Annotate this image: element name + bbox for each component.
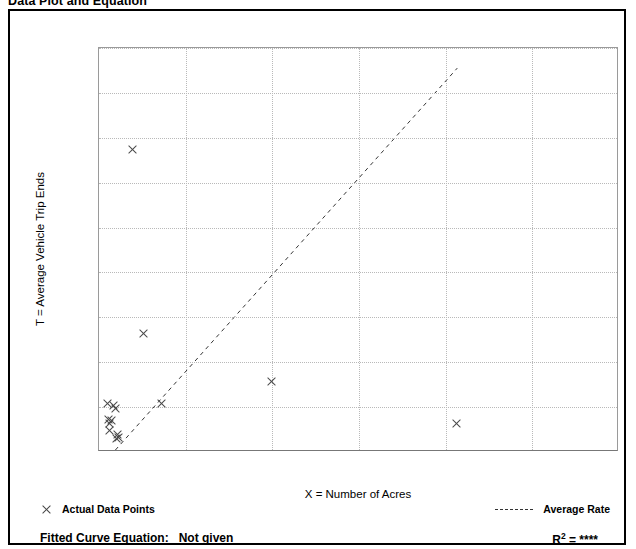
gridline-horizontal xyxy=(99,48,617,49)
y-axis-tick xyxy=(98,93,99,94)
r-squared-exponent: 2 xyxy=(561,531,566,541)
y-axis-minor-tick xyxy=(98,70,99,71)
x-axis-tick xyxy=(99,450,100,451)
dashed-line-icon xyxy=(495,509,533,510)
data-point-marker xyxy=(111,433,122,444)
fitted-curve-equation-label: Fitted Curve Equation: xyxy=(40,531,169,545)
average-rate-trend-line xyxy=(99,48,617,450)
y-axis-minor-tick xyxy=(98,295,99,296)
y-axis-tick xyxy=(98,272,99,273)
y-axis-tick xyxy=(98,228,99,229)
gridline-vertical xyxy=(186,48,187,450)
data-point-marker xyxy=(451,418,462,429)
gridline-vertical xyxy=(359,48,360,450)
y-axis-tick xyxy=(98,183,99,184)
x-axis-minor-tick xyxy=(532,450,533,451)
legend-label-actual-data-points: Actual Data Points xyxy=(62,503,155,515)
y-axis-tick xyxy=(98,407,99,408)
y-axis-minor-tick xyxy=(98,250,99,251)
x-axis-tick xyxy=(272,450,273,451)
gridline-vertical xyxy=(272,48,273,450)
legend-item-actual-data-points: Actual Data Points xyxy=(40,503,155,515)
gridline-horizontal xyxy=(99,183,617,184)
y-axis-tick xyxy=(98,138,99,139)
y-axis-minor-tick xyxy=(98,340,99,341)
x-axis-minor-tick xyxy=(186,450,187,451)
y-axis-minor-tick xyxy=(98,430,99,431)
y-axis-tick xyxy=(98,317,99,318)
data-point-marker xyxy=(265,376,276,387)
page-title: Data Plot and Equation xyxy=(8,0,147,8)
legend-item-average-rate: Average Rate xyxy=(495,503,610,515)
y-axis-minor-tick xyxy=(98,385,99,386)
x-axis-tick xyxy=(446,450,447,451)
r-squared-stars: **** xyxy=(579,533,598,547)
gridline-vertical xyxy=(446,48,447,450)
x-axis-title: X = Number of Acres xyxy=(98,488,618,500)
r-squared-value: R2 = **** xyxy=(552,531,598,547)
r-squared-label: R xyxy=(552,533,561,547)
legend-label-average-rate: Average Rate xyxy=(543,503,610,515)
gridline-horizontal xyxy=(99,407,617,408)
gridline-horizontal xyxy=(99,362,617,363)
y-axis-minor-tick xyxy=(98,115,99,116)
y-axis-minor-tick xyxy=(98,205,99,206)
x-axis-minor-tick xyxy=(359,450,360,451)
x-marker-icon xyxy=(40,504,51,515)
gridline-vertical xyxy=(532,48,533,450)
y-axis-tick xyxy=(98,48,99,49)
gridline-horizontal xyxy=(99,138,617,139)
data-point-marker xyxy=(126,144,137,155)
r-squared-equals-sign: = xyxy=(569,533,576,547)
gridline-horizontal xyxy=(99,317,617,318)
fitted-curve-equation: Fitted Curve Equation: Not given xyxy=(40,531,233,545)
y-axis-title: T = Average Vehicle Trip Ends xyxy=(34,47,50,451)
gridline-horizontal xyxy=(99,93,617,94)
chart-legend: Actual Data Points Average Rate xyxy=(10,503,628,525)
gridline-horizontal xyxy=(99,228,617,229)
data-point-marker xyxy=(138,328,149,339)
figure-card: T = Average Vehicle Trip Ends 01,0002,00… xyxy=(8,9,626,545)
data-point-marker xyxy=(156,398,167,409)
fitted-curve-equation-value: Not given xyxy=(179,531,234,545)
data-point-marker xyxy=(110,403,121,414)
equation-row: Fitted Curve Equation: Not given R2 = **… xyxy=(10,531,628,549)
plot-area: 01,0002,0003,0004,0005,0006,0007,0008,00… xyxy=(98,47,618,451)
y-axis-minor-tick xyxy=(98,160,99,161)
y-axis-tick xyxy=(98,362,99,363)
gridline-horizontal xyxy=(99,272,617,273)
